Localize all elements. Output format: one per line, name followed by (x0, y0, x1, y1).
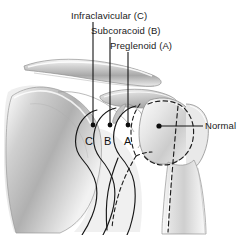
label-infraclavicular: Infraclavicular (C) (71, 11, 147, 21)
label-normal: Normal (205, 121, 236, 131)
marker-letter-b: B (104, 136, 111, 147)
dot-subcoracoid (108, 123, 113, 128)
marker-letter-a: A (124, 136, 131, 147)
dot-normal (156, 123, 161, 128)
humeral-head (139, 98, 208, 172)
label-subcoracoid: Subcoracoid (B) (91, 26, 161, 36)
dot-infraclavicular (91, 123, 96, 128)
marker-letter-c: C (85, 136, 93, 147)
label-preglenoid: Preglenoid (A) (110, 41, 172, 51)
dot-preglenoid (126, 123, 131, 128)
shoulder-dislocation-figure: Infraclavicular (C) Subcoracoid (B) Preg… (0, 0, 252, 235)
